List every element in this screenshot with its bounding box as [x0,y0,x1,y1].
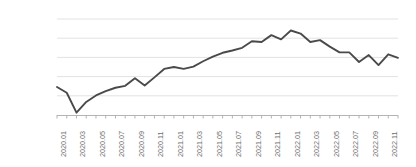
x-axis-tick-label: 2022.09 [372,131,379,157]
x-axis-tick-label: 2020.07 [118,131,125,157]
x-axis-tick-label: 2020.03 [79,131,86,157]
x-axis-tick-label: 2021.07 [235,131,242,157]
x-axis-tick-label: 2022.07 [352,131,359,157]
x-axis-tick-label: 2022.03 [313,131,320,157]
x-axis-tick-label: 2022.05 [333,131,340,157]
x-axis-tick-label: 2022.01 [294,131,301,157]
x-axis-tick-label: 2021.05 [216,131,223,157]
line-chart: 5,000pt4,500pt4,000pt3,500pt3,000pt2,500… [0,0,416,167]
x-axis-tick-label: 2020.09 [138,131,145,157]
x-axis-tick-label: 2021.03 [196,131,203,157]
x-axis-tick-label: 2020.01 [60,131,67,157]
x-axis-labels: 2020.012020.032020.052020.072020.092020.… [0,0,416,167]
x-axis-tick-label: 2022.11 [391,132,398,157]
x-axis-tick-label: 2021.09 [255,131,262,157]
x-axis-tick-label: 2021.11 [274,132,281,157]
x-axis-tick-label: 2020.05 [99,131,106,157]
x-axis-tick-label: 2020.11 [157,132,164,157]
x-axis-tick-label: 2021.01 [177,131,184,157]
